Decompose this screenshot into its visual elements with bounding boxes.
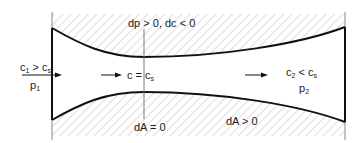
outlet-condition-label: c2 < cs bbox=[286, 66, 317, 82]
throat-area-label: dA = 0 bbox=[134, 121, 166, 133]
inlet-condition-label: c1 > cs bbox=[20, 61, 51, 77]
inlet-pressure-label: p1 bbox=[30, 79, 40, 95]
arrow-outlet bbox=[245, 73, 268, 78]
pressure-velocity-annotation: dp > 0, dc < 0 bbox=[128, 17, 195, 29]
outlet-pressure-label: p2 bbox=[299, 82, 309, 98]
diverging-area-label: dA > 0 bbox=[226, 115, 258, 127]
throat-condition-label: c = cs bbox=[127, 69, 154, 85]
arrow-throat bbox=[101, 73, 122, 78]
upper-wall-hatch bbox=[52, 14, 345, 57]
